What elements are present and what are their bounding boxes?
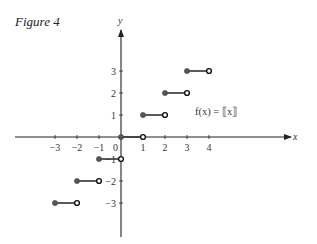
closed-endpoint-dot — [140, 112, 145, 117]
x-axis-label: x — [292, 131, 298, 142]
closed-endpoint-dot — [52, 200, 57, 205]
x-tick-label: −1 — [94, 142, 105, 153]
closed-endpoint-dot — [162, 90, 167, 95]
open-endpoint-dot — [119, 157, 124, 162]
closed-endpoint-dot — [96, 156, 101, 161]
step-segment — [184, 68, 211, 73]
x-tick-label: −3 — [50, 142, 61, 153]
open-endpoint-dot — [141, 135, 146, 140]
open-endpoint-dot — [207, 69, 212, 74]
step-segment — [140, 112, 167, 117]
open-endpoint-dot — [185, 91, 190, 96]
step-function-plot: −3−2−101234−3−2−1123 x y f(x) = ⟦x⟧ — [0, 0, 317, 244]
y-tick-label: −3 — [105, 198, 116, 209]
closed-endpoint-dot — [184, 68, 189, 73]
open-endpoint-dot — [97, 179, 102, 184]
step-segment — [162, 90, 189, 95]
y-tick-label: 2 — [111, 88, 116, 99]
axes — [15, 30, 291, 237]
x-tick-label: −2 — [72, 142, 83, 153]
x-tick-label: 3 — [185, 142, 190, 153]
closed-endpoint-dot — [74, 178, 79, 183]
step-segment — [118, 134, 145, 139]
open-endpoint-dot — [163, 113, 168, 118]
y-tick-label: −2 — [105, 176, 116, 187]
x-tick-label: 2 — [163, 142, 168, 153]
step-segment — [52, 200, 79, 205]
y-axis-label: y — [117, 15, 123, 26]
x-tick-label: 0 — [113, 142, 118, 153]
closed-endpoint-dot — [118, 134, 123, 139]
step-segment — [74, 178, 101, 183]
open-endpoint-dot — [75, 201, 80, 206]
y-tick-label: 1 — [111, 110, 116, 121]
x-tick-label: 4 — [207, 142, 212, 153]
function-label: f(x) = ⟦x⟧ — [195, 106, 237, 118]
y-tick-label: 3 — [111, 66, 116, 77]
x-tick-label: 1 — [141, 142, 146, 153]
